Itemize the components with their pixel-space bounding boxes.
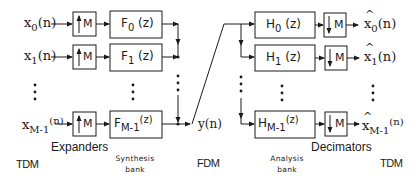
synthesis-filter-0: F0 (z) bbox=[121, 17, 154, 33]
decimator-label-0: M bbox=[334, 19, 344, 30]
output-signal-m-1: xM-1(n) bbox=[362, 117, 404, 136]
synthesis-filter-m-1: FM-1(z) bbox=[114, 115, 153, 133]
ellipsis-dots bbox=[34, 55, 375, 125]
decimator-label-m-1: M bbox=[335, 118, 345, 129]
output-signal-1: x1(n) bbox=[364, 50, 396, 67]
diagram-lines bbox=[0, 0, 419, 183]
input-signal-1: x1(n) bbox=[24, 49, 56, 66]
analysis-filter-1: H1 (z) bbox=[266, 51, 301, 67]
output-signal-0: x0(n) bbox=[364, 17, 396, 34]
expanders-caption: Expanders bbox=[51, 141, 108, 153]
expander-label-m-1: M bbox=[83, 118, 93, 129]
channel-signal-label: y(n) bbox=[198, 118, 222, 130]
decimators-caption: Decimators bbox=[311, 141, 372, 153]
synthesis-filter-1: F1 (z) bbox=[121, 50, 154, 66]
synthesis-bank-caption: Synthesisbank bbox=[110, 155, 160, 173]
input-signal-0: x0(n) bbox=[24, 16, 56, 33]
expander-label-1: M bbox=[83, 51, 93, 62]
analysis-filter-m-1: HM-1(z) bbox=[258, 115, 299, 133]
expander-label-0: M bbox=[83, 18, 93, 29]
input-signal-m-1: xM-1(n) bbox=[22, 116, 64, 135]
tdm-right-label: TDM bbox=[380, 158, 402, 169]
decimator-label-1: M bbox=[335, 52, 345, 63]
analysis-filter-0: H0 (z) bbox=[266, 18, 301, 34]
fdm-label: FDM bbox=[197, 158, 219, 169]
tdm-left-label: TDM bbox=[16, 159, 38, 170]
analysis-bank-caption: Analysisbank bbox=[262, 155, 312, 173]
